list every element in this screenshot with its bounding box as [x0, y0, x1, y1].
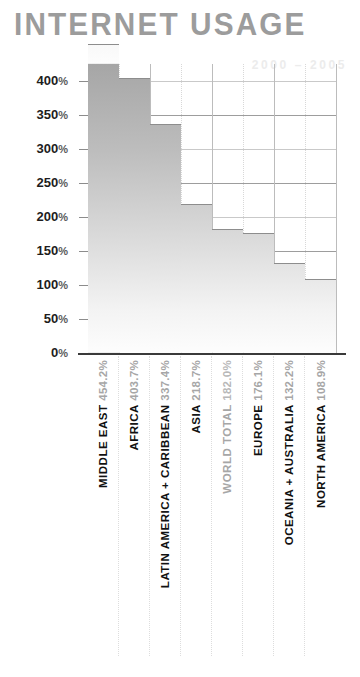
y-axis-tick-label: 0%	[6, 345, 68, 360]
y-axis-tick	[79, 217, 88, 218]
x-axis-label-value: 218.7%	[190, 360, 202, 401]
x-axis-label-name: WORLD TOTAL	[221, 405, 233, 494]
x-axis-label-name: OCEANIA + AUSTRALIA	[283, 405, 295, 546]
bar-top-edge	[119, 78, 150, 79]
y-axis-tick	[79, 319, 88, 320]
x-axis-label-column: MIDDLE EAST 454.2%	[88, 356, 119, 656]
y-axis-tick	[79, 285, 88, 286]
bar-top-edge	[243, 233, 274, 234]
x-axis-label-value: 182.0%	[221, 360, 233, 401]
y-axis-tick-label: 200%	[6, 209, 68, 224]
y-axis-tick-label: 350%	[6, 107, 68, 122]
x-axis-label-column: EUROPE 176.1%	[243, 356, 274, 656]
x-axis-label-value: 337.4%	[159, 360, 171, 401]
x-axis-label-column: OCEANIA + AUSTRALIA 132.2%	[274, 356, 305, 656]
x-axis-label-column: AFRICA 403.7%	[119, 356, 150, 656]
y-axis-tick-label: 250%	[6, 175, 68, 190]
x-axis-label-value: 108.9%	[314, 360, 326, 401]
bar	[150, 124, 181, 353]
y-axis-tick	[79, 149, 88, 150]
x-axis-label: MIDDLE EAST 454.2%	[98, 360, 109, 488]
bar	[88, 44, 119, 353]
x-axis-label-value: 176.1%	[252, 360, 264, 401]
y-axis-tick	[79, 251, 88, 252]
bar	[305, 279, 336, 353]
y-axis-tick	[79, 115, 88, 116]
plot-area	[88, 64, 336, 353]
x-axis-label-value: 403.7%	[128, 360, 140, 401]
x-axis-label: NORTH AMERICA 108.9%	[315, 360, 326, 508]
bar-top-edge	[181, 204, 212, 205]
x-axis-labels: MIDDLE EAST 454.2%AFRICA 403.7%LATIN AME…	[88, 356, 336, 656]
x-axis-label: ASIA 218.7%	[191, 360, 202, 434]
x-axis-label: OCEANIA + AUSTRALIA 132.2%	[284, 360, 295, 545]
x-axis-label-name: MIDDLE EAST	[97, 405, 109, 488]
bar	[119, 78, 150, 353]
y-axis-tick-label: 100%	[6, 277, 68, 292]
gridline-vertical	[336, 64, 337, 353]
x-axis-label: LATIN AMERICA + CARIBBEAN 337.4%	[160, 360, 171, 588]
x-axis-label-value: 454.2%	[97, 360, 109, 401]
bar	[274, 263, 305, 353]
chart-title: INTERNET USAGE	[14, 7, 346, 43]
axis-baseline	[78, 353, 346, 355]
x-axis-label: AFRICA 403.7%	[129, 360, 140, 451]
x-axis-label-name: LATIN AMERICA + CARIBBEAN	[159, 405, 171, 589]
y-axis-tick	[79, 81, 88, 82]
bar-top-edge	[274, 263, 305, 264]
x-axis-label-column: ASIA 218.7%	[181, 356, 212, 656]
x-axis-label: EUROPE 176.1%	[253, 360, 264, 456]
bar-top-edge	[88, 44, 119, 45]
y-axis-tick-label: 150%	[6, 243, 68, 258]
x-axis-label-name: NORTH AMERICA	[314, 405, 326, 508]
x-axis-label-value: 132.2%	[283, 360, 295, 401]
x-axis-label-column: LATIN AMERICA + CARIBBEAN 337.4%	[150, 356, 181, 656]
x-axis-label-column: NORTH AMERICA 108.9%	[305, 356, 336, 656]
bar	[212, 229, 243, 353]
bar-top-edge	[305, 279, 336, 280]
x-axis-label: WORLD TOTAL 182.0%	[222, 360, 233, 494]
y-axis-tick-label: 50%	[6, 311, 68, 326]
y-axis-tick-label: 300%	[6, 141, 68, 156]
bar	[181, 204, 212, 353]
y-axis-tick	[79, 183, 88, 184]
y-axis-tick-label: 400%	[6, 73, 68, 88]
x-axis-label-name: AFRICA	[128, 405, 140, 451]
x-axis-label-name: ASIA	[190, 405, 202, 434]
x-axis-label-column: WORLD TOTAL 182.0%	[212, 356, 243, 656]
bar-top-edge	[212, 229, 243, 230]
x-axis-label-name: EUROPE	[252, 405, 264, 457]
bar	[243, 233, 274, 353]
bar-top-edge	[150, 124, 181, 125]
